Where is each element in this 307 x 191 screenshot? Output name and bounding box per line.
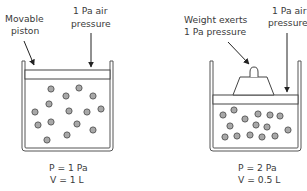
gas-particle (48, 119, 54, 125)
label-weight-2: 1 Pa pressure (184, 26, 246, 37)
gas-particle (66, 108, 72, 114)
label-air-pressure-2: pressure (71, 18, 111, 29)
gas-particle (247, 132, 253, 138)
movable-piston (25, 70, 110, 79)
volume-label-right: V = 0.5 L (238, 174, 281, 185)
volume-label-left: V = 1 L (50, 174, 85, 185)
label-air-pressure-right-1: 1 Pa air (272, 5, 307, 16)
weight-block (233, 77, 274, 95)
gas-particle (285, 127, 291, 133)
label-air-pressure-right-2: pressure (268, 17, 307, 28)
gas-particle (44, 137, 50, 143)
left-panel: Movable piston 1 Pa air pressure P = 1 P… (5, 5, 113, 185)
gas-particle (98, 106, 104, 112)
gas-particle (46, 101, 52, 107)
gas-particle (227, 123, 233, 129)
gas-particles-left (32, 85, 104, 143)
label-movable-piston-1: Movable (5, 13, 44, 24)
gas-particle (231, 107, 237, 113)
gas-particle (253, 122, 259, 128)
gas-particle (76, 85, 82, 91)
gas-particle (74, 121, 80, 127)
weight-pointer-arrow-icon (228, 42, 249, 64)
gas-particle (242, 116, 248, 122)
gas-particle (32, 109, 38, 115)
boyles-law-diagram: Movable piston 1 Pa air pressure P = 1 P… (0, 0, 307, 191)
right-panel: Weight exerts 1 Pa pressure 1 Pa air pre… (184, 5, 307, 185)
movable-piston-right (213, 95, 298, 104)
gas-particle (234, 133, 240, 139)
gas-particle (48, 86, 54, 92)
pressure-label-right: P = 2 Pa (238, 162, 277, 173)
gas-particle (220, 112, 226, 118)
gas-particle (277, 113, 283, 119)
gas-particle (255, 111, 261, 117)
gas-particle (259, 134, 265, 140)
label-weight-1: Weight exerts (184, 14, 248, 25)
gas-particles-right (220, 107, 291, 140)
label-movable-piston-2: piston (11, 25, 39, 36)
gas-particle (63, 93, 69, 99)
gas-particle (267, 112, 273, 118)
gas-particle (84, 109, 90, 115)
gas-particle (90, 127, 96, 133)
gas-particle (35, 122, 41, 128)
pressure-label-left: P = 1 Pa (49, 162, 88, 173)
label-air-pressure-1: 1 Pa air (73, 5, 108, 16)
gas-particle (222, 134, 228, 140)
weight-knob (250, 67, 258, 77)
gas-particle (90, 93, 96, 99)
gas-particle (64, 132, 70, 138)
gas-particle (264, 124, 270, 130)
gas-particle (272, 133, 278, 139)
